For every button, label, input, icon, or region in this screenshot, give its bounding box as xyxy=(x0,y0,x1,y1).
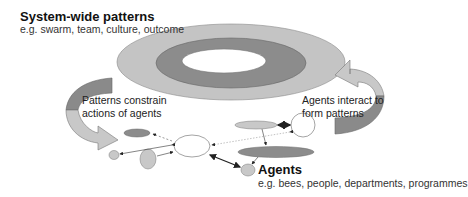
agent-tall xyxy=(140,149,156,169)
left-arrow-line2: actions of agents xyxy=(82,107,167,120)
left-arrow-label: Patterns constrain actions of agents xyxy=(82,94,167,120)
inner-hole xyxy=(182,49,266,73)
system-ring xyxy=(117,24,345,100)
right-arrow-line1: Agents interact to xyxy=(302,94,384,107)
agent-small-gray xyxy=(241,164,255,176)
agent-dark-wide xyxy=(238,147,314,158)
right-arrow-label: Agents interact to form patterns xyxy=(302,94,384,120)
agent-tiny xyxy=(109,151,119,160)
agent-center-white xyxy=(174,135,210,157)
agent-dark-small xyxy=(124,129,150,137)
left-arrow-line1: Patterns constrain xyxy=(82,94,167,107)
right-arrow-line2: form patterns xyxy=(302,107,384,120)
system-title: System-wide patterns xyxy=(20,9,154,24)
agents-subtitle: e.g. bees, people, departments, programm… xyxy=(258,177,468,189)
system-subtitle: e.g. swarm, team, culture, outcome xyxy=(20,23,184,35)
agents-title: Agents xyxy=(258,162,302,177)
agent-light-flat xyxy=(235,121,277,129)
